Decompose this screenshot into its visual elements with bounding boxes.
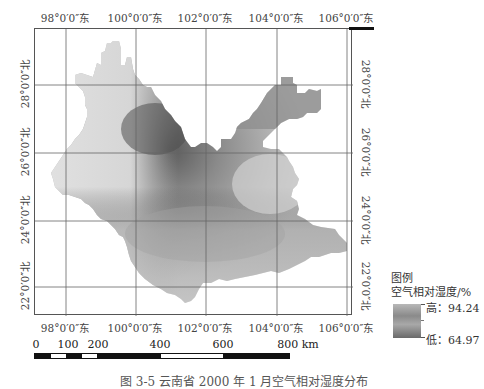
humidity-raster-map (35, 29, 353, 316)
legend-tick-high (421, 304, 425, 305)
scale-label-400: 400 (150, 338, 171, 351)
bottom-tick-104e: 104°0′0″东 (249, 320, 304, 335)
left-tick-28n: 28°0′0″北 (17, 60, 32, 108)
scale-bar (34, 353, 290, 359)
legend-high-label: 高：94.24 (426, 299, 480, 315)
top-tick-106e: 106°0′0″东 (319, 10, 374, 25)
left-tick-26n: 26°0′0″北 (17, 128, 32, 176)
legend-low-label: 低：64.97 (426, 331, 480, 347)
right-tick-24n: 24°0′0″北 (359, 196, 374, 244)
right-tick-22n: 22°0′0″北 (359, 262, 374, 310)
legend-subtitle: 空气相对湿度/% (391, 283, 471, 299)
bottom-tick-98e: 98°0′0″东 (41, 320, 89, 335)
scale-label-0: 0 (33, 338, 40, 351)
frame-corner-marker (349, 27, 374, 30)
scale-label-100: 100 (58, 338, 79, 351)
left-tick-22n: 22°0′0″北 (17, 262, 32, 310)
map-frame (34, 28, 352, 315)
figure-caption: 图 3-5 云南省 2000 年 1 月空气相对湿度分布 (120, 372, 368, 389)
scale-label-800km: 800 km (277, 338, 319, 351)
left-tick-24n: 24°0′0″北 (17, 196, 32, 244)
top-tick-100e: 100°0′0″东 (108, 10, 163, 25)
scale-label-200: 200 (88, 338, 109, 351)
legend-tick-mid (421, 320, 424, 321)
scale-label-600: 600 (213, 338, 234, 351)
top-tick-104e: 104°0′0″东 (249, 10, 304, 25)
legend-tick-low (421, 337, 425, 338)
right-tick-26n: 26°0′0″北 (359, 128, 374, 176)
legend-gradient-swatch (393, 304, 421, 338)
right-tick-28n: 28°0′0″北 (359, 60, 374, 108)
bottom-tick-106e: 106°0′0″东 (319, 320, 374, 335)
top-tick-102e: 102°0′0″东 (178, 10, 233, 25)
bottom-tick-100e: 100°0′0″东 (108, 320, 163, 335)
bottom-tick-102e: 102°0′0″东 (178, 320, 233, 335)
top-tick-98e: 98°0′0″东 (41, 10, 89, 25)
